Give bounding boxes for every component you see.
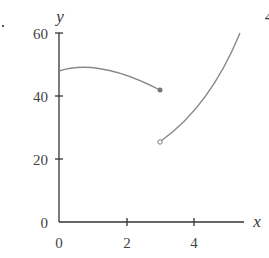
cropped-annotation: 4 <box>265 7 269 26</box>
y-axis-label: y <box>54 7 64 26</box>
closed-endpoint <box>158 88 163 93</box>
x-tick-label-2: 2 <box>123 235 131 251</box>
x-tick-label-0: 0 <box>55 235 63 251</box>
y-tick-label-60: 60 <box>33 26 48 42</box>
cropped-fragment-mark <box>2 25 4 27</box>
open-endpoint <box>158 140 162 144</box>
x-tick-label-4: 4 <box>190 235 198 251</box>
curve-piece-1 <box>59 67 160 90</box>
y-tick-label-40: 40 <box>33 89 48 105</box>
chart: 60 40 20 0 0 2 4 y x 4 <box>0 0 269 258</box>
curve-piece-2 <box>161 33 240 141</box>
y-tick-label-20: 20 <box>33 152 48 168</box>
x-axis-label: x <box>252 212 261 231</box>
y-tick-label-0: 0 <box>41 215 49 231</box>
